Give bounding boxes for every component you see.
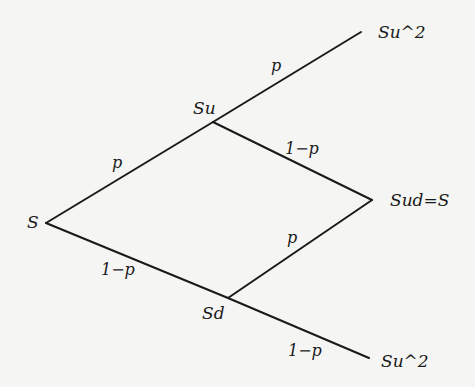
edge-root-up xyxy=(46,122,213,223)
edge-label-down-updown: p xyxy=(287,230,297,246)
node-label-up-down: Sud=S xyxy=(390,192,449,209)
edge-label-root-up: p xyxy=(112,155,122,171)
edge-label-up-upup: p xyxy=(271,58,281,74)
edge-down-updown xyxy=(228,200,372,298)
node-label-up: Su xyxy=(193,100,216,117)
edge-up-upup xyxy=(213,32,361,122)
node-label-down: Sd xyxy=(202,305,225,322)
edge-label-down-downdown: 1−p xyxy=(288,343,322,359)
node-label-root: S xyxy=(27,214,39,231)
edge-label-up-updown: 1−p xyxy=(285,141,319,157)
edge-label-root-down: 1−p xyxy=(101,262,135,278)
edge-up-updown xyxy=(213,122,372,200)
edge-root-down xyxy=(46,223,228,298)
node-label-down-down: Su^2 xyxy=(381,353,429,370)
node-label-up-up: Su^2 xyxy=(378,24,426,41)
